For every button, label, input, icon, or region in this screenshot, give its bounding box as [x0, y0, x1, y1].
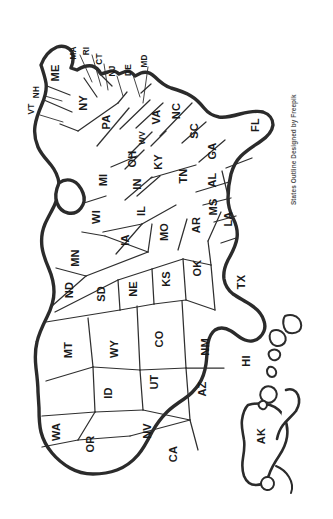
state-label-md: MD [140, 54, 149, 67]
state-label-la: LA [222, 211, 234, 226]
hawaii-island-lanai [259, 401, 267, 410]
state-label-mt: MT [62, 342, 74, 358]
state-label-co: CO [153, 330, 165, 347]
hawaii-island-maui [269, 350, 281, 361]
state-label-al: AL [206, 172, 218, 187]
state-label-ks: KS [160, 271, 172, 287]
alaska-island-1 [261, 477, 274, 490]
state-label-nd: ND [63, 282, 75, 298]
state-label-vt: VT [27, 104, 36, 115]
state-label-nv: NV [141, 423, 153, 439]
state-label-ak: AK [255, 428, 267, 444]
state-label-in: IN [131, 178, 143, 189]
us-outline-map: MENHVTMARICTNYNJPADEMDWVVANCSCGAFLOHKYTN… [0, 0, 333, 519]
state-label-il: IL [135, 206, 147, 216]
state-label-id: ID [102, 387, 114, 398]
state-label-ga: GA [206, 143, 218, 160]
state-label-or: OR [84, 436, 96, 453]
state-label-mi: MI [97, 174, 109, 187]
state-label-nc: NC [170, 103, 182, 119]
great-lakes-notch [56, 180, 84, 213]
state-label-pa: PA [100, 115, 112, 130]
state-label-ok: OK [191, 260, 203, 277]
hawaii-island-kauai [270, 330, 286, 346]
state-label-ne: NE [127, 281, 139, 297]
state-label-nh: NH [32, 86, 41, 98]
hawaii-island-molokai [267, 367, 276, 377]
state-label-ny: NY [77, 95, 89, 111]
state-label-ia: IA [119, 234, 131, 245]
state-label-wy: WY [108, 339, 120, 358]
state-label-ma: MA [69, 46, 78, 59]
state-label-mo: MO [158, 223, 170, 241]
state-label-va: VA [150, 110, 162, 125]
state-label-sc: SC [188, 123, 200, 139]
attribution-text: States Outline Designed by Freepik [290, 94, 298, 205]
state-label-mn: MN [69, 249, 81, 267]
state-label-tn: TN [177, 168, 189, 183]
state-label-sd: SD [95, 286, 107, 302]
state-label-de: DE [124, 64, 133, 76]
state-label-az: AZ [196, 381, 208, 396]
state-label-wv: WV [138, 131, 147, 145]
border-ca-az [190, 420, 198, 450]
state-label-ca: CA [167, 446, 179, 462]
alaska-inset-group [242, 389, 299, 493]
state-label-ms: MS [207, 199, 219, 216]
state-label-nj: NJ [108, 66, 117, 77]
state-label-oh: OH [126, 151, 138, 168]
hawaii-island-oahu [283, 315, 301, 333]
state-label-ut: UT [148, 374, 160, 389]
state-label-nm: NM [199, 338, 211, 356]
state-label-tx: TX [235, 274, 247, 289]
state-label-hi: HI [240, 355, 252, 366]
state-label-ar: AR [190, 217, 202, 233]
state-label-ct: CT [95, 53, 104, 64]
state-label-ky: KY [152, 154, 164, 170]
state-label-ri: RI [82, 47, 91, 56]
state-label-wi: WI [90, 210, 102, 224]
state-label-wa: WA [50, 423, 62, 441]
state-label-fl: FL [249, 118, 261, 132]
state-label-me: ME [49, 65, 61, 82]
alaska-aleutian-1 [276, 466, 292, 493]
